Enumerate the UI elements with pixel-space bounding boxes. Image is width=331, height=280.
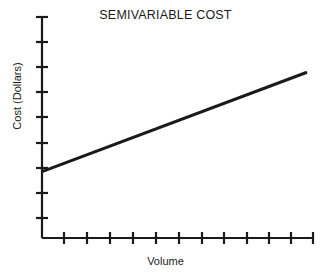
plot-area: [0, 0, 331, 280]
chart-figure: SEMIVARIABLE COST: [0, 0, 331, 280]
cost-line-series: [42, 72, 307, 171]
x-axis-label: Volume: [0, 255, 331, 267]
y-axis-label: Cost (Dollars): [11, 41, 23, 151]
